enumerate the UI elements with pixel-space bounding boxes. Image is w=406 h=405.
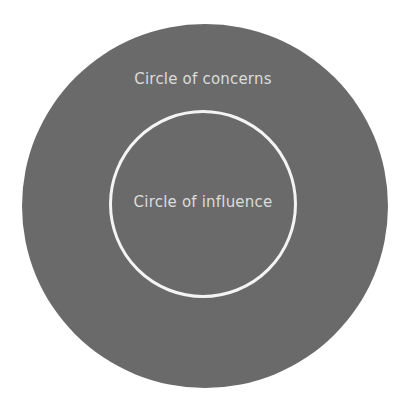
circle-of-concerns-label: Circle of concerns [0, 70, 406, 88]
circle-of-influence-label: Circle of influence [0, 193, 406, 211]
